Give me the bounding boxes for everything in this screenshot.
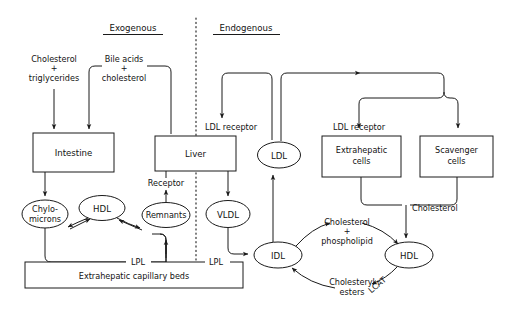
label-bile-acids-plus: + <box>121 64 128 73</box>
ellipse-vldl-label: VLDL <box>217 210 239 220</box>
box-extrahepatic-cells-label-1: Extrahepatic <box>336 145 387 155</box>
arrow-to-scavenger-cells <box>444 92 458 128</box>
header-endogenous: Endogenous <box>220 23 273 33</box>
arrow-vldl-to-idl <box>228 228 248 254</box>
label-bile-cholesterol: cholesterol <box>102 73 146 83</box>
arrow-chylomicrons-to-hdl <box>70 219 90 229</box>
line-cells-trunk-right <box>360 73 444 92</box>
label-ldl-receptor-cells: LDL receptor <box>333 122 386 132</box>
ellipse-ldl-label: LDL <box>271 151 287 161</box>
label-lpl-left-top: LPL <box>131 257 145 267</box>
box-scavenger-cells-label-1: Scavenger <box>435 145 479 155</box>
line-chylomicrons-to-lpl <box>45 228 128 262</box>
arrow-hdl-to-chylomicrons <box>68 218 88 227</box>
arrow-hdl-to-remnants <box>117 218 140 228</box>
arrow-bile-to-intestine <box>89 66 102 129</box>
box-capillary-beds-label: Extrahepatic capillary beds <box>79 271 189 281</box>
label-cholesterol-intake-plus: + <box>51 64 58 73</box>
label-receptor-remnants: Receptor <box>148 178 185 188</box>
line-lpl-to-remnants-curve <box>152 234 166 262</box>
line-liver-to-bile-bracket-right <box>147 66 171 134</box>
ellipse-idl-label: IDL <box>271 251 285 261</box>
ellipse-chylomicrons-label-2: microns <box>29 214 61 224</box>
box-intestine-label: Intestine <box>55 148 93 158</box>
line-extrahepatic-to-chol-merge <box>361 177 402 205</box>
header-exogenous: Exogenous <box>110 23 157 33</box>
ellipse-hdl-left-label: HDL <box>93 204 111 214</box>
diagram-canvas: Exogenous Endogenous Cholesterol + trigl… <box>0 0 518 316</box>
line-scavenger-to-chol-merge <box>410 177 457 205</box>
ellipse-chylomicrons-label-1: Chylo- <box>32 204 58 214</box>
label-cholesteryl-esters-2: esters <box>340 287 365 297</box>
arrow-lpl-to-remnants-helper <box>160 234 166 258</box>
label-phospholipid: phospholipid <box>321 236 373 246</box>
label-cholesterol-transfer-plus: + <box>344 227 351 236</box>
label-cholesterol-from-cells: Cholesterol <box>412 203 458 213</box>
label-ldl-receptor-liver: LDL receptor <box>205 122 258 132</box>
box-extrahepatic-cells-label-2: cells <box>352 156 370 166</box>
label-triglycerides-intake: triglycerides <box>29 73 79 83</box>
label-lpl-right-top: LPL <box>209 257 223 267</box>
box-liver-label: Liver <box>185 149 207 159</box>
ellipse-remnants-label: Remnants <box>146 210 187 220</box>
arrow-remnants-to-hdl <box>119 220 142 230</box>
label-cholesterol-intake: Cholesterol <box>31 54 77 64</box>
box-scavenger-cells-label-2: cells <box>447 156 465 166</box>
ellipse-hdl-right-label: HDL <box>400 251 418 261</box>
label-bile-acids: Bile acids <box>105 54 144 64</box>
lipoprotein-metabolism-diagram: Exogenous Endogenous Cholesterol + trigl… <box>0 0 518 316</box>
label-cholesterol-transfer: Cholesterol <box>324 217 370 227</box>
